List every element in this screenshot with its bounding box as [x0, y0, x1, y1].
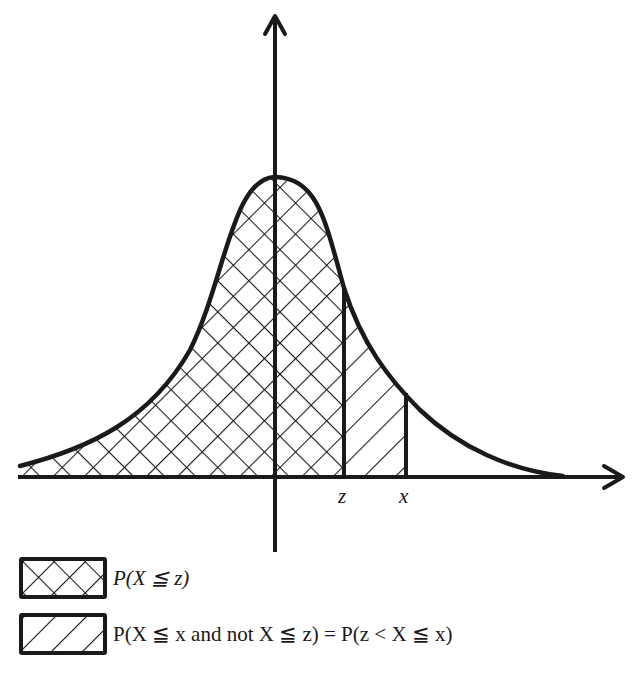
normal-curve-figure	[0, 0, 641, 560]
cross-hatch-swatch-icon	[19, 557, 107, 599]
diagonal-hatch-swatch-icon	[19, 613, 107, 655]
x-axis-label: x	[399, 484, 408, 509]
legend-item-cross-hatch: P(X ≦ z)	[19, 557, 189, 599]
legend-label-p-x-le-z: P(X ≦ z)	[113, 566, 189, 591]
z-axis-label: z	[338, 484, 346, 509]
region-left-of-z	[20, 177, 563, 477]
legend-item-diagonal-hatch: P(X ≦ x and not X ≦ z) = P(z < X ≦ x)	[19, 613, 453, 655]
legend-label-p-z-lt-x-le-x: P(X ≦ x and not X ≦ z) = P(z < X ≦ x)	[113, 622, 453, 647]
